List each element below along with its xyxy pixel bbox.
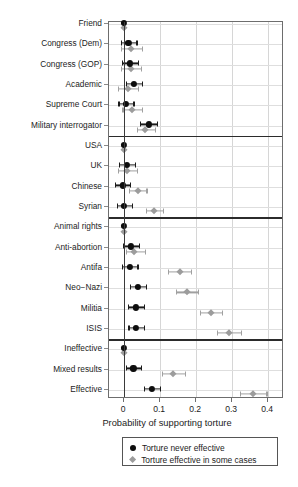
data-point-diamond (176, 268, 184, 276)
confidence-interval-cap (200, 310, 201, 315)
x-axis-tick (231, 398, 232, 402)
diamond-marker-icon (129, 456, 136, 463)
plot-area (108, 21, 283, 398)
gridline (232, 22, 233, 397)
data-point-diamond (183, 289, 191, 297)
x-axis-tick (267, 398, 268, 402)
confidence-interval-cap (118, 87, 119, 92)
confidence-interval-cap (222, 310, 223, 315)
confidence-interval-cap (198, 290, 199, 295)
confidence-interval-cap (121, 46, 122, 51)
y-axis-label: Animal rights (54, 221, 102, 231)
confidence-interval-cap (142, 46, 143, 51)
confidence-interval-cap (138, 87, 139, 92)
gridline (109, 105, 282, 106)
confidence-interval-cap (139, 244, 140, 249)
confidence-interval-cap (121, 41, 122, 46)
data-point-diamond (207, 309, 215, 317)
x-axis-tick-label: 0.3 (225, 404, 237, 414)
confidence-interval-cap (162, 371, 163, 376)
confidence-interval-cap (137, 264, 138, 269)
x-axis-tick-label: 0.4 (261, 404, 273, 414)
confidence-interval-cap (118, 168, 119, 173)
confidence-interval-cap (168, 270, 169, 275)
confidence-interval-cap (142, 107, 143, 112)
confidence-interval-cap (163, 209, 164, 214)
group-separator (109, 339, 282, 341)
y-axis-label: Effective (70, 384, 102, 394)
confidence-interval-cap (117, 203, 118, 208)
confidence-interval-cap (185, 371, 186, 376)
y-axis-label: Ineffective (64, 343, 102, 353)
confidence-interval-cap (241, 331, 242, 336)
confidence-interval-cap (137, 168, 138, 173)
x-axis-tick (159, 398, 160, 402)
circle-marker-icon (130, 445, 136, 451)
confidence-interval-cap (128, 325, 129, 330)
y-axis-label: Militia (81, 303, 102, 313)
confidence-interval-cap (128, 305, 129, 310)
gridline (109, 349, 282, 350)
x-axis-title: Probability of supporting torture (0, 418, 298, 428)
confidence-interval-cap (126, 249, 127, 254)
confidence-interval-cap (155, 127, 156, 132)
gridline (109, 65, 282, 66)
group-separator (109, 217, 282, 219)
gridline (109, 390, 282, 391)
confidence-interval-cap (140, 122, 141, 127)
y-axis-label: Military interrogator (31, 120, 102, 130)
confidence-interval-cap (138, 61, 139, 66)
x-axis-tick-label: 0.1 (153, 404, 165, 414)
y-axis-label: Anti-abortion (55, 242, 102, 252)
gridline (160, 22, 161, 397)
confidence-interval-cap (160, 386, 161, 391)
confidence-interval-cap (141, 66, 142, 71)
confidence-interval-cap (136, 41, 137, 46)
gridline (109, 227, 282, 228)
dot-whisker-chart: FriendCongress (Dem)Congress (GOP)Academ… (0, 0, 298, 487)
confidence-interval-cap (115, 183, 116, 188)
x-axis-tick-label: 0.2 (189, 404, 201, 414)
y-axis-label: Academic (66, 79, 102, 89)
confidence-interval-cap (217, 331, 218, 336)
confidence-interval-cap (135, 163, 136, 168)
y-axis-label: Chinese (72, 181, 102, 191)
confidence-interval-cap (126, 366, 127, 371)
confidence-interval-cap (119, 163, 120, 168)
legend-label: Torture never effective (142, 443, 225, 453)
gridline (109, 268, 282, 269)
gridline (109, 187, 282, 188)
data-point-diamond (128, 106, 136, 114)
confidence-interval-cap (144, 386, 145, 391)
confidence-interval-cap (146, 188, 147, 193)
legend-item-effective-some-cases: Torture effective in some cases (130, 453, 256, 466)
confidence-interval-cap (121, 66, 122, 71)
y-axis-label: Mixed results (53, 364, 102, 374)
confidence-interval-cap (157, 122, 158, 127)
gridline (109, 24, 282, 25)
gridline (109, 44, 282, 45)
confidence-interval-cap (144, 305, 145, 310)
confidence-interval-cap (118, 102, 119, 107)
y-axis-label: ISIS (86, 323, 102, 333)
gridline (109, 126, 282, 127)
y-axis-label: Supreme Court (46, 99, 102, 109)
confidence-interval-cap (144, 325, 145, 330)
y-axis-label: Friend (78, 18, 102, 28)
confidence-interval-cap (176, 290, 177, 295)
data-point-diamond (170, 370, 178, 378)
gridline (109, 146, 282, 147)
x-axis-tick (195, 398, 196, 402)
confidence-interval-cap (122, 264, 123, 269)
confidence-interval-cap (191, 270, 192, 275)
data-point-diamond (250, 390, 258, 398)
y-axis-label: Congress (GOP) (40, 59, 102, 69)
confidence-interval-cap (266, 392, 267, 397)
y-axis-label: Syrian (78, 201, 102, 211)
confidence-interval-cap (130, 183, 131, 188)
legend-label: Torture effective in some cases (141, 455, 256, 465)
confidence-interval-cap (130, 285, 131, 290)
confidence-interval-cap (122, 61, 123, 66)
gridline (268, 22, 269, 397)
y-axis-label: Antifa (81, 262, 102, 272)
